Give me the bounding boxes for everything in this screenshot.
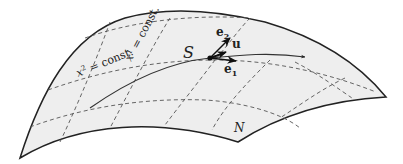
label-n: N: [233, 121, 245, 135]
surface-patch: [20, 11, 386, 158]
surface-diagram: S e2 u e1 x2 = const. x1 = const. N: [0, 0, 403, 164]
label-u: u: [232, 37, 241, 51]
label-s: S: [183, 43, 194, 62]
